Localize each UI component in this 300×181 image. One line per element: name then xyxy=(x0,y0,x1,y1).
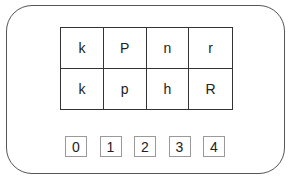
grid-cell: k xyxy=(61,28,104,69)
grid-cell: r xyxy=(189,28,232,69)
answer-option-2[interactable]: 2 xyxy=(134,136,156,157)
letter-grid: k P n r k p h R xyxy=(60,27,233,110)
grid-cell: P xyxy=(104,28,147,69)
grid-cell: n xyxy=(147,28,190,69)
grid-cell: R xyxy=(189,69,232,110)
grid-cell: p xyxy=(104,69,147,110)
answer-options: 0 1 2 3 4 xyxy=(65,136,225,157)
answer-option-4[interactable]: 4 xyxy=(203,136,225,157)
grid-cell: k xyxy=(61,69,104,110)
grid-cell: h xyxy=(147,69,190,110)
answer-option-0[interactable]: 0 xyxy=(65,136,87,157)
answer-option-1[interactable]: 1 xyxy=(100,136,122,157)
answer-option-3[interactable]: 3 xyxy=(169,136,191,157)
